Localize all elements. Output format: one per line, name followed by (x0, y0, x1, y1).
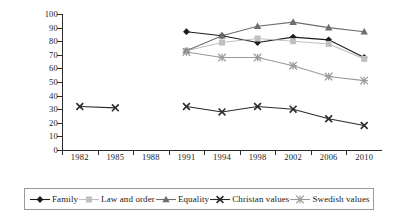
data-point-square (326, 41, 332, 47)
y-axis-tick-label: 60 (34, 64, 58, 73)
y-axis-labels: 0102030405060708090100 (30, 14, 58, 150)
series-line (186, 106, 364, 125)
y-axis-tick-label: 0 (34, 146, 58, 155)
data-point-asterisk (360, 77, 368, 85)
y-axis-tick-label: 30 (34, 105, 58, 114)
legend-marker-cross-icon (209, 194, 231, 205)
legend-item-christan-values[interactable]: Christan values (209, 194, 289, 205)
y-axis-tick-label: 100 (34, 10, 58, 19)
x-axis-line (62, 150, 382, 151)
legend-marker-square-icon (78, 194, 100, 205)
data-point-asterisk (218, 54, 226, 62)
y-axis-tick-label: 90 (34, 24, 58, 33)
data-point-square (361, 56, 367, 62)
legend-marker-asterisk-icon (289, 194, 311, 205)
legend-marker-triangle-icon (155, 194, 177, 205)
data-point-asterisk (325, 73, 333, 81)
data-point-square (255, 35, 261, 41)
series-line (186, 22, 364, 51)
series-swedish-values (183, 48, 368, 84)
x-axis-tick-label: 2010 (341, 153, 387, 162)
series-line (186, 52, 364, 81)
series-christan-values (76, 103, 367, 129)
data-point-asterisk (289, 62, 297, 70)
legend-item-swedish-values[interactable]: Swedish values (289, 194, 369, 205)
y-axis-tick-label: 70 (34, 51, 58, 60)
data-point-square (219, 40, 225, 46)
data-point-triangle (289, 18, 296, 25)
series-layer (62, 14, 382, 150)
data-point-asterisk (254, 54, 262, 62)
series-law-and-order (183, 35, 367, 61)
data-point-asterisk (183, 48, 191, 56)
legend-label: Family (52, 194, 78, 204)
legend-label: Equality (178, 194, 209, 204)
data-point-square (86, 196, 92, 202)
legend-item-law-and-order[interactable]: Law and order (78, 194, 155, 205)
data-point-diamond (37, 196, 44, 203)
data-point-square (290, 38, 296, 44)
chart-legend: FamilyLaw and orderEqualityChristan valu… (24, 188, 374, 210)
data-point-diamond (183, 28, 190, 35)
y-axis-tick-label: 80 (34, 37, 58, 46)
series-line (80, 106, 116, 107)
legend-label: Swedish values (312, 194, 369, 204)
legend-marker-diamond-icon (29, 194, 51, 205)
line-chart: 0102030405060708090100 FamilyLaw and ord… (0, 0, 398, 223)
legend-label: Christan values (232, 194, 289, 204)
data-point-asterisk (297, 195, 305, 203)
y-axis-tick-label: 10 (34, 132, 58, 141)
legend-item-family[interactable]: Family (29, 194, 78, 205)
legend-item-equality[interactable]: Equality (155, 194, 209, 205)
y-axis-tick-label: 20 (34, 119, 58, 128)
legend-label: Law and order (101, 194, 155, 204)
y-axis-tick-label: 50 (34, 78, 58, 87)
y-axis-tick-label: 40 (34, 92, 58, 101)
